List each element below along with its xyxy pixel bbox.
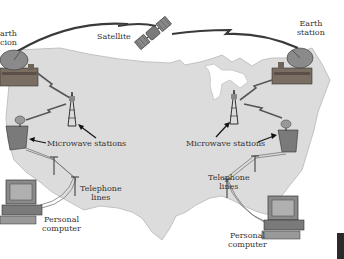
- earth-station-right-icon: [272, 48, 313, 84]
- label-line: Telephone: [80, 184, 122, 193]
- downlink-arc-right: [172, 30, 298, 48]
- label-line: computer: [42, 224, 81, 233]
- telephone-lines-left-label: Telephone lines: [80, 184, 122, 202]
- label-line: computer: [228, 240, 267, 249]
- label-line: lines: [208, 182, 250, 191]
- earth-station-right-label: Earth station: [297, 19, 325, 37]
- label-line: arth: [0, 29, 17, 38]
- microwave-stations-left-label: Microwave stations: [47, 139, 126, 148]
- communications-network-diagram: arth cion Satellite Earth station Microw…: [0, 0, 344, 259]
- label-line: station: [297, 28, 325, 37]
- personal-computer-left-label: Personal computer: [42, 215, 81, 233]
- satellite-icon: [134, 16, 171, 49]
- label-line: Earth: [297, 19, 325, 28]
- personal-computer-right-label: Personal computer: [228, 231, 267, 249]
- label-line: lines: [80, 193, 122, 202]
- label-line: cion: [0, 38, 17, 47]
- microwave-stations-right-label: Microwave stations: [186, 139, 265, 148]
- label-line: Telephone: [208, 173, 250, 182]
- uplink-arc-left: [16, 24, 156, 52]
- personal-computer-right-icon: [262, 196, 304, 239]
- personal-computer-left-icon: [0, 180, 42, 224]
- earth-station-left-label: arth cion: [0, 29, 17, 47]
- label-line: Personal: [42, 215, 81, 224]
- telephone-lines-right-label: Telephone lines: [208, 173, 250, 191]
- satellite-label: Satellite: [97, 32, 131, 41]
- edge-bar: [337, 233, 344, 259]
- label-line: Personal: [228, 231, 267, 240]
